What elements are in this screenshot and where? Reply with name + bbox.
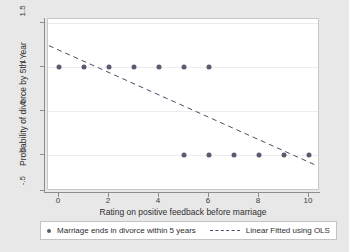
data-point bbox=[157, 65, 162, 70]
data-point bbox=[232, 153, 237, 158]
x-tick-label: 10 bbox=[304, 197, 313, 205]
legend-label-scatter: Marriage ends in divorce within 5 years bbox=[57, 226, 196, 235]
y-tick-mark bbox=[40, 110, 44, 111]
chart-legend: Marriage ends in divorce within 5 years … bbox=[40, 221, 337, 240]
y-axis-title-text: Probability of divorce by 5th Year bbox=[18, 42, 28, 166]
y-tick-label: 1.5 bbox=[19, 5, 27, 16]
y-axis-spine bbox=[44, 18, 45, 192]
y-tick-mark bbox=[40, 190, 44, 191]
x-axis-spine bbox=[44, 192, 320, 193]
ols-fit-line bbox=[48, 19, 318, 189]
plot-area bbox=[47, 18, 319, 190]
scatter-chart-figure: 1.5 1 .5 0 -.5 0 2 4 6 8 10 Rating on po… bbox=[0, 0, 349, 252]
data-point bbox=[57, 65, 62, 70]
gridline-1_5 bbox=[48, 23, 318, 24]
x-tick-label: 0 bbox=[56, 197, 60, 205]
x-tick-label: 4 bbox=[156, 197, 160, 205]
x-axis-title: Rating on positive feedback before marri… bbox=[47, 207, 319, 217]
gridline-0_5 bbox=[48, 111, 318, 112]
legend-label-fit-line: Linear Fitted using OLS bbox=[246, 226, 330, 235]
data-point bbox=[182, 65, 187, 70]
y-axis-title: Probability of divorce by 5th Year bbox=[17, 18, 29, 190]
data-point bbox=[132, 65, 137, 70]
data-point bbox=[182, 153, 187, 158]
data-point bbox=[282, 153, 287, 158]
y-tick-mark bbox=[40, 22, 44, 23]
x-tick-label: 6 bbox=[206, 197, 210, 205]
legend-entry-scatter: Marriage ends in divorce within 5 years bbox=[47, 226, 196, 235]
data-point bbox=[207, 153, 212, 158]
x-tick-label: 2 bbox=[106, 197, 110, 205]
dashed-line-marker-icon bbox=[210, 230, 240, 231]
y-tick-mark bbox=[40, 154, 44, 155]
circle-marker-icon bbox=[47, 229, 51, 233]
x-tick-label: 8 bbox=[256, 197, 260, 205]
y-tick-mark bbox=[40, 66, 44, 67]
data-point bbox=[307, 153, 312, 158]
legend-entry-fit-line: Linear Fitted using OLS bbox=[210, 226, 330, 235]
data-point bbox=[207, 65, 212, 70]
data-point bbox=[82, 65, 87, 70]
data-point bbox=[107, 65, 112, 70]
data-point bbox=[257, 153, 262, 158]
